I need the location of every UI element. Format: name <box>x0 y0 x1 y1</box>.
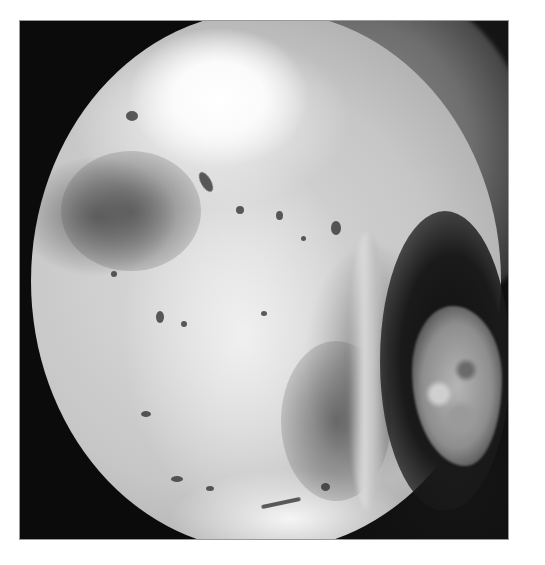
speck <box>156 311 164 323</box>
crack-line <box>261 497 301 509</box>
speck <box>171 476 183 482</box>
speck <box>141 411 151 417</box>
speck <box>301 236 306 241</box>
speck <box>321 483 330 491</box>
speck <box>276 211 283 220</box>
speck <box>111 271 117 277</box>
speck <box>181 321 187 327</box>
speck <box>331 221 341 235</box>
speck <box>196 170 216 194</box>
speck <box>261 311 267 316</box>
endoscopic-image <box>20 21 508 539</box>
speck <box>126 111 138 121</box>
speck <box>236 206 244 214</box>
dark-patch <box>61 151 201 271</box>
speck <box>206 486 214 491</box>
